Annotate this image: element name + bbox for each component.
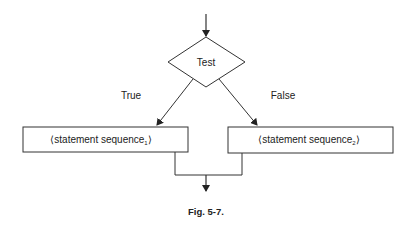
decision-label: Test bbox=[197, 57, 216, 68]
statement-box-1-label: ⟨statement sequence1⟩ bbox=[50, 134, 151, 146]
statement-box-2-label: ⟨statement sequence2⟩ bbox=[258, 134, 359, 146]
flowchart: Test True False ⟨statement sequence1⟩ ⟨s… bbox=[0, 0, 412, 225]
false-branch-arrow bbox=[219, 79, 257, 125]
true-branch-arrow bbox=[157, 79, 193, 125]
merge-connector bbox=[175, 152, 242, 175]
true-label: True bbox=[121, 90, 142, 101]
figure-caption: Fig. 5-7. bbox=[188, 206, 224, 217]
false-label: False bbox=[271, 90, 296, 101]
